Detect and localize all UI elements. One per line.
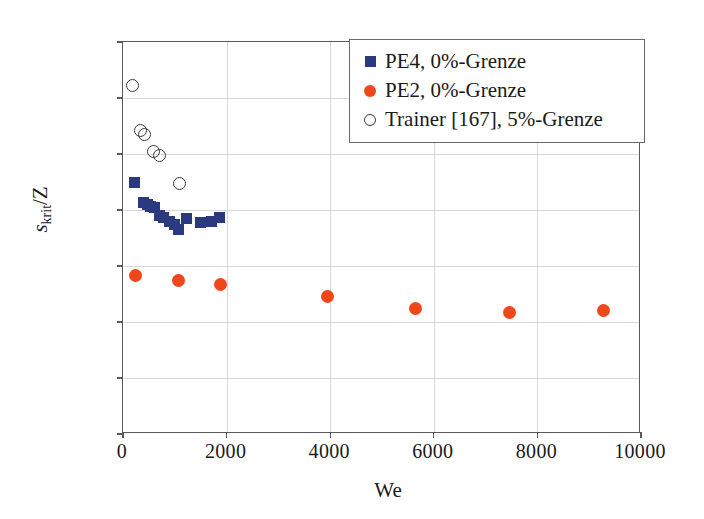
y-axis-tick: [117, 97, 123, 98]
x-axis-tick: [640, 432, 641, 438]
data-point-series-3: [173, 177, 186, 190]
x-axis-tick: [433, 432, 434, 438]
gridline-horizontal: [123, 378, 639, 379]
legend-marker-icon: [360, 56, 380, 67]
x-axis-tick-label: 0: [67, 441, 177, 461]
data-point-series-3: [126, 79, 139, 92]
legend-item-1: PE4, 0%-Grenze: [360, 47, 634, 76]
legend-item-label: PE4, 0%-Grenze: [385, 51, 526, 72]
y-axis-title-tail: /Z: [28, 186, 52, 205]
x-axis-tick-label: 8000: [481, 441, 591, 461]
x-axis-tick: [330, 432, 331, 438]
x-axis-tick: [226, 432, 227, 438]
legend-item-3: Trainer [167], 5%-Grenze: [360, 105, 634, 134]
x-axis-tick: [537, 432, 538, 438]
y-axis-title-subscript: krit: [39, 205, 54, 224]
data-point-series-2: [172, 274, 185, 287]
legend-item-label: Trainer [167], 5%-Grenze: [385, 109, 603, 130]
y-axis-title-main: s: [28, 224, 52, 232]
data-point-series-2: [503, 306, 516, 319]
data-point-series-1: [195, 217, 206, 228]
data-point-series-1: [129, 177, 140, 188]
gridline-horizontal: [123, 154, 639, 155]
x-axis-tick-label: 2000: [171, 441, 281, 461]
gridline-vertical: [227, 42, 228, 432]
legend-marker-icon: [360, 85, 380, 97]
x-axis-title-text: We: [374, 478, 401, 502]
x-axis-title: We: [0, 478, 704, 503]
y-axis-tick: [117, 265, 123, 266]
x-axis-tick: [122, 432, 123, 438]
gridline-horizontal: [123, 266, 639, 267]
y-axis-tick: [117, 377, 123, 378]
y-axis-tick: [117, 41, 123, 42]
x-axis-tick-label: 10000: [585, 441, 695, 461]
data-point-series-2: [409, 302, 422, 315]
x-axis-tick-label: 6000: [378, 441, 488, 461]
legend-swatch-shape: [364, 114, 376, 126]
gridline-horizontal: [123, 210, 639, 211]
data-point-series-2: [214, 278, 227, 291]
data-point-series-1: [181, 213, 192, 224]
legend-item-label: PE2, 0%-Grenze: [385, 80, 526, 101]
y-axis-tick: [117, 153, 123, 154]
y-axis-title: skrit/Z: [28, 186, 55, 232]
x-axis-tick-label: 4000: [274, 441, 384, 461]
gridline-vertical: [330, 42, 331, 432]
y-axis-tick: [117, 321, 123, 322]
legend-swatch-shape: [364, 85, 376, 97]
data-point-series-3: [138, 128, 151, 141]
legend-swatch-shape: [365, 56, 376, 67]
legend-box: PE4, 0%-GrenzePE2, 0%-GrenzeTrainer [167…: [349, 39, 645, 143]
legend-marker-icon: [360, 114, 380, 126]
data-point-series-2: [321, 290, 334, 303]
y-axis-tick: [117, 209, 123, 210]
data-point-series-3: [153, 149, 166, 162]
data-point-series-2: [597, 304, 610, 317]
data-point-series-1: [173, 224, 184, 235]
gridline-horizontal: [123, 322, 639, 323]
data-point-series-1: [214, 212, 225, 223]
legend-item-2: PE2, 0%-Grenze: [360, 76, 634, 105]
scatter-chart-figure: skrit/Z 00,20,40,60,81,01,21,4 020004000…: [0, 0, 704, 519]
data-point-series-2: [129, 269, 142, 282]
